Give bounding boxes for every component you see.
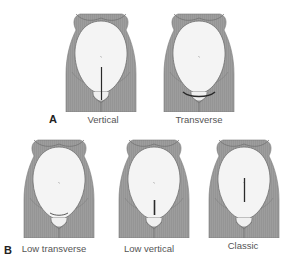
torso-illustration (160, 12, 238, 112)
caption-classic: Classic (218, 240, 268, 251)
panel-label-b: B (4, 244, 12, 256)
figure-low-vertical (115, 138, 193, 238)
figure-classic (205, 138, 283, 238)
torso-illustration (115, 138, 193, 238)
caption-low-vertical: Low vertical (118, 243, 180, 254)
caption-low-transverse: Low transverse (16, 243, 92, 254)
torso-illustration (62, 12, 140, 112)
torso-illustration (20, 138, 98, 238)
figure-vertical (62, 12, 140, 112)
panel-label-a: A (49, 113, 57, 125)
caption-transverse: Transverse (168, 114, 230, 125)
torso-illustration (205, 138, 283, 238)
figure-transverse (160, 12, 238, 112)
figure-low-transverse (20, 138, 98, 238)
caption-vertical: Vertical (78, 114, 128, 125)
